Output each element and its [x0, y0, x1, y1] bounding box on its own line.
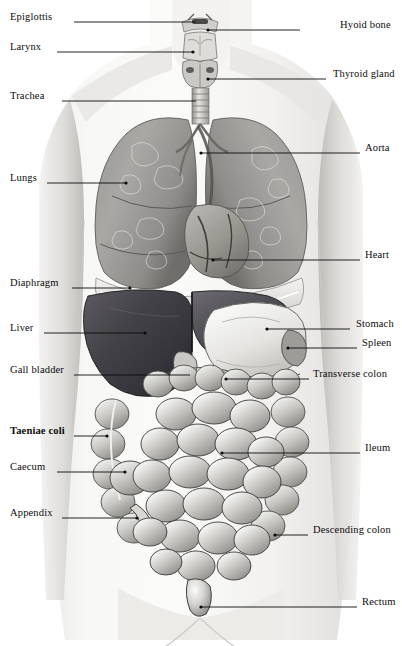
label-descending-colon: Descending colon — [313, 525, 391, 536]
label-gall-bladder: Gall bladder — [10, 365, 64, 376]
label-trachea: Trachea — [10, 91, 44, 102]
label-transverse-colon: Transverse colon — [313, 369, 387, 380]
label-liver: Liver — [10, 323, 34, 334]
label-lungs: Lungs — [10, 173, 37, 184]
label-thyroid-gland: Thyroid gland — [333, 69, 395, 80]
torso-illustration — [0, 0, 402, 646]
label-stomach: Stomach — [356, 319, 394, 330]
label-diaphragm: Diaphragm — [10, 278, 59, 289]
label-epiglottis: Epiglottis — [10, 12, 52, 23]
label-aorta: Aorta — [365, 143, 390, 154]
label-larynx: Larynx — [10, 42, 41, 53]
label-heart: Heart — [365, 250, 389, 261]
label-hyoid-bone: Hyoid bone — [340, 20, 391, 31]
anatomy-figure: EpiglottisLarynxTracheaLungsDiaphragmLiv… — [0, 0, 402, 646]
label-rectum: Rectum — [362, 597, 396, 608]
label-appendix: Appendix — [10, 508, 53, 519]
label-ileum: Ileum — [365, 443, 390, 454]
rectum-group — [186, 579, 211, 616]
label-caecum: Caecum — [10, 462, 45, 473]
label-spleen: Spleen — [362, 338, 391, 349]
label-taeniae-coli: Taeniae coli — [10, 426, 65, 437]
